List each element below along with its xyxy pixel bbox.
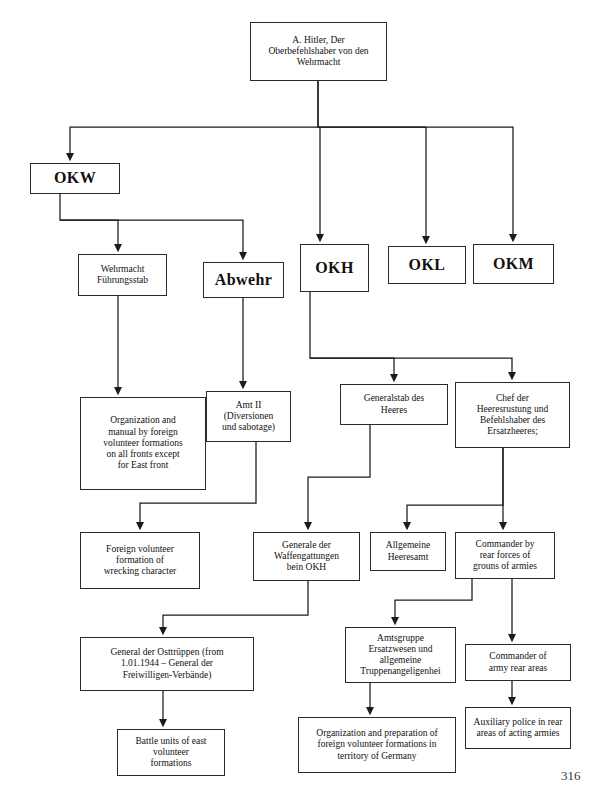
node-auxiliary_police: Auxiliary police in rear areas of acting…	[465, 707, 571, 749]
node-label: Generale der Waffengattungen bein OKH	[257, 540, 356, 574]
connector-generalstab-to-generale_waffengattungen	[308, 425, 370, 526]
connector-okh-to-chef_heeresrustung	[310, 358, 512, 376]
node-generalstab: Generalstab des Heeres	[340, 384, 448, 425]
node-label: OKM	[477, 255, 550, 274]
node-amtsgruppe: Amtsgruppe Ersatzwesen und allgemeine Tr…	[345, 627, 456, 683]
node-allgemeine_heeresamt: Allgemeine Heeresamt	[370, 532, 446, 571]
node-label: Generalstab des Heeres	[344, 393, 444, 415]
node-label: OKW	[34, 169, 116, 188]
node-wehrmacht_fuehrungsstab: Wehrmacht Führungsstab	[78, 254, 167, 296]
node-label: Foreign volunteer formation of wrecking …	[84, 544, 196, 578]
node-label: Chef der Heeresrustung und Befehlshaber …	[459, 393, 566, 438]
node-hitler: A. Hitler, Der Oberbefehlshaber von den …	[250, 22, 387, 81]
node-label: Amt II (Diversionen und sabotage)	[210, 400, 287, 434]
page-number: 316	[561, 768, 581, 784]
connector-hitler-to-okl	[318, 127, 426, 240]
connector-okh-to-generalstab	[310, 292, 394, 378]
connector-commander_rear_forces-to-amtsgruppe	[395, 579, 472, 621]
node-foreign_wrecking: Foreign volunteer formation of wrecking …	[80, 532, 200, 589]
node-okm: OKM	[473, 244, 554, 284]
node-label: Commander of army rear areas	[469, 651, 567, 673]
connector-okw-to-wehrmacht_fuehrungsstab	[60, 194, 118, 248]
node-commander_rear_forces: Commander by rear forces of grouns of ar…	[455, 532, 555, 579]
node-generale_waffengattungen: Generale der Waffengattungen bein OKH	[253, 532, 360, 581]
node-org_prep_germany: Organization and preparation of foreign …	[298, 717, 456, 773]
node-label: OKL	[392, 256, 462, 275]
node-okh: OKH	[300, 244, 369, 292]
node-chef_heeresrustung: Chef der Heeresrustung und Befehlshaber …	[455, 382, 570, 448]
node-okw: OKW	[30, 163, 120, 194]
connector-hitler-to-okh	[318, 81, 320, 238]
node-label: General der Osttrüppen (from 1.01.1944 –…	[84, 647, 250, 681]
connector-hitler-to-okm	[318, 127, 513, 238]
node-label: Allgemeine Heeresamt	[374, 540, 442, 562]
node-label: Wehrmacht Führungsstab	[82, 264, 163, 286]
node-okl: OKL	[388, 246, 466, 284]
node-label: Commander by rear forces of grouns of ar…	[459, 539, 551, 573]
node-battle_units: Battle units of east volunteer formation…	[117, 729, 225, 776]
node-label: Amtsgruppe Ersatzwesen und allgemeine Tr…	[349, 633, 452, 678]
node-label: A. Hitler, Der Oberbefehlshaber von den …	[254, 35, 383, 69]
node-label: Abwehr	[207, 271, 280, 290]
org-chart-diagram: A. Hitler, Der Oberbefehlshaber von den …	[0, 0, 616, 804]
node-org_manual_foreign: Organization and manual by foreign volun…	[80, 397, 206, 490]
node-label: Auxiliary police in rear areas of acting…	[469, 717, 567, 739]
node-label: OKH	[304, 259, 365, 278]
node-general_osttruppen: General der Osttrüppen (from 1.01.1944 –…	[80, 637, 254, 691]
node-label: Battle units of east volunteer formation…	[121, 736, 221, 770]
connector-hitler-to-okw	[70, 81, 318, 157]
connector-okw-to-abwehr	[60, 220, 243, 256]
node-amt_ii: Amt II (Diversionen und sabotage)	[206, 391, 291, 442]
node-label: Organization and preparation of foreign …	[302, 728, 452, 762]
connector-chef_heeresrustung-to-allgemeine_heeresamt	[407, 448, 503, 526]
node-abwehr: Abwehr	[203, 262, 284, 298]
node-commander_army_rear: Commander of army rear areas	[465, 644, 571, 681]
node-label: Organization and manual by foreign volun…	[84, 415, 202, 471]
